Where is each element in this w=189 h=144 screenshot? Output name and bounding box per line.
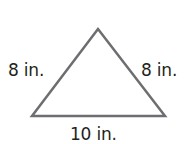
right-side-label: 8 in. xyxy=(141,62,177,79)
left-side-label: 8 in. xyxy=(8,62,44,79)
base-label: 10 in. xyxy=(70,126,117,143)
